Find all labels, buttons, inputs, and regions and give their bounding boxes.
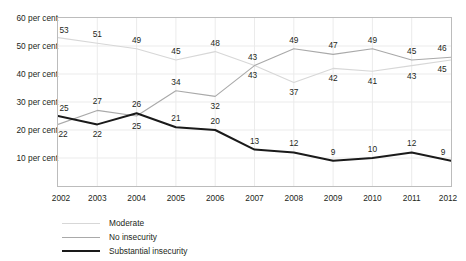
data-point-label: 20 [211, 116, 220, 126]
data-point-label: 25 [132, 121, 141, 131]
line-chart: 60 per cent50 per cent40 per cent30 per … [0, 0, 466, 261]
y-axis-labels: 60 per cent50 per cent40 per cent30 per … [0, 0, 58, 261]
data-point-label: 43 [248, 52, 257, 62]
y-axis-tick-label: 30 per cent [0, 97, 58, 107]
data-point-label: 46 [437, 43, 446, 53]
data-point-label: 12 [407, 138, 416, 148]
legend-swatch-icon [62, 223, 100, 224]
legend-item[interactable]: Substantial insecurity [62, 244, 187, 258]
x-axis-tick-label: 2011 [403, 193, 421, 203]
data-point-label: 47 [328, 40, 337, 50]
data-point-label: 13 [250, 136, 259, 146]
data-point-label: 43 [248, 70, 257, 80]
x-axis-tick-label: 2004 [127, 193, 145, 203]
x-axis-tick-label: 2003 [88, 193, 106, 203]
data-point-label: 10 [368, 144, 377, 154]
data-point-label: 37 [289, 87, 298, 97]
y-axis-tick-label: 50 per cent [0, 41, 58, 51]
data-point-label: 9 [441, 147, 446, 157]
legend-label: Moderate [109, 219, 144, 227]
data-point-label: 51 [93, 29, 102, 39]
data-point-label: 25 [59, 103, 68, 113]
legend-item[interactable]: No insecurity [62, 230, 187, 244]
x-axis-tick-label: 2010 [363, 193, 381, 203]
x-axis-tick-label: 2002 [52, 193, 70, 203]
legend-label: Substantial insecurity [109, 247, 187, 255]
data-point-label: 45 [171, 46, 180, 56]
data-point-label: 49 [368, 35, 377, 45]
plot-svg [58, 18, 451, 186]
data-point-label: 48 [211, 38, 220, 48]
x-axis-tick-label: 2009 [324, 193, 342, 203]
data-point-label: 12 [289, 138, 298, 148]
x-axis-tick-label: 2008 [285, 193, 303, 203]
data-point-label: 27 [93, 96, 102, 106]
plot-area [57, 17, 452, 187]
data-point-label: 45 [437, 64, 446, 74]
data-point-label: 9 [331, 147, 336, 157]
x-axis-tick-label: 2006 [206, 193, 224, 203]
y-axis-tick-label: 60 per cent [0, 13, 58, 23]
data-point-label: 22 [93, 129, 102, 139]
data-point-label: 26 [132, 99, 141, 109]
data-point-label: 53 [59, 25, 68, 35]
legend-label: No insecurity [109, 233, 157, 241]
chart-legend: ModerateNo insecuritySubstantial insecur… [62, 216, 187, 258]
legend-swatch-icon [62, 237, 100, 238]
legend-item[interactable]: Moderate [62, 216, 187, 230]
y-axis-tick-label: 40 per cent [0, 69, 58, 79]
clipped-chart-title [30, 0, 466, 3]
x-axis-tick-label: 2012 [439, 193, 457, 203]
data-point-label: 42 [328, 73, 337, 83]
data-point-label: 34 [171, 77, 180, 87]
data-point-label: 49 [289, 35, 298, 45]
x-axis-tick-label: 2005 [167, 193, 185, 203]
data-point-label: 43 [407, 71, 416, 81]
data-point-label: 21 [171, 113, 180, 123]
legend-swatch-icon [62, 250, 100, 252]
x-axis-tick-label: 2007 [245, 193, 263, 203]
y-axis-tick-label: 20 per cent [0, 125, 58, 135]
data-point-label: 22 [58, 129, 67, 139]
data-point-label: 41 [368, 76, 377, 86]
data-point-label: 49 [132, 35, 141, 45]
y-axis-tick-label: 10 per cent [0, 153, 58, 163]
data-point-label: 45 [407, 46, 416, 56]
data-point-label: 32 [211, 101, 220, 111]
